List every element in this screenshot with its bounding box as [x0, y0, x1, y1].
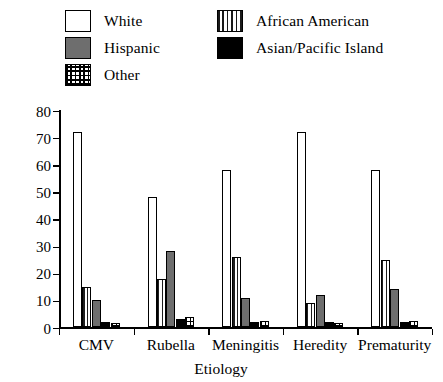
y-tick-labels: 01020304050607080 — [7, 110, 51, 329]
bar-other — [334, 323, 343, 327]
bar-white — [222, 170, 231, 327]
y-tick-label: 60 — [36, 158, 51, 173]
legend-label-african-american: African American — [256, 13, 369, 29]
legend-item-asian-pacific-island: Asian/Pacific Island — [217, 37, 383, 59]
y-tick-label: 50 — [36, 185, 51, 200]
bar-white — [73, 132, 82, 327]
bar-hispanic — [241, 298, 250, 328]
legend-item-other: Other — [65, 64, 140, 86]
bar-asian-pacific-island — [250, 322, 259, 327]
bar-hispanic — [92, 300, 101, 327]
bar-asian-pacific-island — [176, 319, 185, 327]
x-tick-label: CMV — [79, 336, 114, 354]
x-tick-mark — [432, 329, 433, 335]
white-swatch — [65, 10, 91, 32]
bar-african-american — [157, 279, 166, 328]
legend-item-hispanic: Hispanic — [65, 37, 160, 59]
bar-african-american — [232, 257, 241, 328]
bar-asian-pacific-island — [400, 322, 409, 327]
bar-other — [111, 323, 120, 327]
bar-hispanic — [316, 295, 325, 328]
chart-legend: White Hispanic Other African American As… — [0, 8, 443, 90]
x-tick-label: Rubella — [147, 336, 195, 354]
y-tick-label: 30 — [36, 240, 51, 255]
bar-chart-figure: White Hispanic Other African American As… — [0, 0, 443, 382]
bar-african-american — [381, 260, 390, 328]
bar-group — [134, 110, 209, 327]
legend-label-hispanic: Hispanic — [104, 40, 160, 56]
bar-group — [59, 110, 134, 327]
bar-white — [297, 132, 306, 327]
vertical-stripe-swatch — [217, 10, 243, 32]
bar-hispanic — [166, 251, 175, 327]
legend-item-white: White — [65, 10, 142, 32]
legend-item-african-american: African American — [217, 10, 369, 32]
y-tick-label: 70 — [36, 131, 51, 146]
bar-asian-pacific-island — [325, 322, 334, 327]
gray-swatch — [65, 37, 91, 59]
y-tick-label: 0 — [44, 321, 52, 336]
plot-area: 01020304050607080 — [59, 110, 432, 329]
y-tick-label: 20 — [36, 267, 51, 282]
x-tick-mark — [208, 329, 209, 335]
bar-other — [185, 317, 194, 328]
bar-white — [371, 170, 380, 327]
bar-group — [357, 110, 432, 327]
y-tick-label: 80 — [36, 104, 51, 119]
legend-label-white: White — [104, 13, 142, 29]
bar-african-american — [82, 287, 91, 328]
bar-asian-pacific-island — [101, 322, 110, 327]
x-tick-mark — [283, 329, 284, 335]
x-tick-label: Heredity — [293, 336, 347, 354]
black-swatch — [217, 37, 243, 59]
x-tick-mark — [134, 329, 135, 335]
crosshatch-swatch — [65, 64, 91, 86]
x-tick-mark — [357, 329, 358, 335]
y-tick-label: 40 — [36, 213, 51, 228]
bar-african-american — [306, 303, 315, 327]
x-axis-line — [59, 327, 432, 329]
legend-label-asian-pacific-island: Asian/Pacific Island — [256, 40, 383, 56]
bar-group — [208, 110, 283, 327]
bar-hispanic — [390, 289, 399, 327]
bar-white — [148, 197, 157, 327]
bar-other — [260, 321, 269, 328]
y-tick-label: 10 — [36, 294, 51, 309]
x-tick-label: Prematurity — [358, 336, 431, 354]
x-axis-title: Etiology — [194, 360, 247, 378]
bar-group — [283, 110, 358, 327]
x-tick-label: Meningitis — [212, 336, 279, 354]
bar-other — [409, 321, 418, 328]
legend-label-other: Other — [104, 67, 140, 83]
x-tick-mark — [59, 329, 60, 335]
